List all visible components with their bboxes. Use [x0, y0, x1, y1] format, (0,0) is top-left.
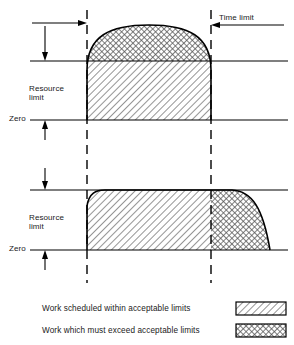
time-limit-label: Time limit — [219, 13, 254, 22]
lower-resource-limit-label-line1: Resource — [29, 213, 64, 222]
upper-span-arrowhead — [78, 20, 87, 26]
upper-zero-label: Zero — [9, 114, 26, 123]
upper-panel — [30, 20, 288, 140]
legend-swatch-exceeding-limits — [236, 324, 286, 337]
upper-resource-limit-label-line2: limit — [29, 93, 44, 102]
lower-panel — [30, 168, 288, 270]
legend-swatch-within-limits — [236, 302, 286, 315]
lower-resource-limit-label-line2: limit — [29, 222, 44, 231]
legend-label-within-limits: Work scheduled within acceptable limits — [42, 304, 190, 314]
lower-zero-label: Zero — [9, 244, 26, 253]
upper-resource-limit-label-line1: Resource — [29, 84, 64, 93]
legend-label-exceeding-limits: Work which must exceed acceptable limits — [42, 326, 200, 336]
resource-histogram-figure — [0, 0, 294, 345]
lower-height-arrowhead — [42, 181, 48, 190]
lower-zero-arrowhead — [42, 250, 48, 259]
legend — [236, 302, 286, 337]
time-limit-arrowhead — [211, 22, 220, 28]
upper-zero-arrowhead — [42, 120, 48, 129]
upper-height-arrowhead — [42, 52, 48, 61]
